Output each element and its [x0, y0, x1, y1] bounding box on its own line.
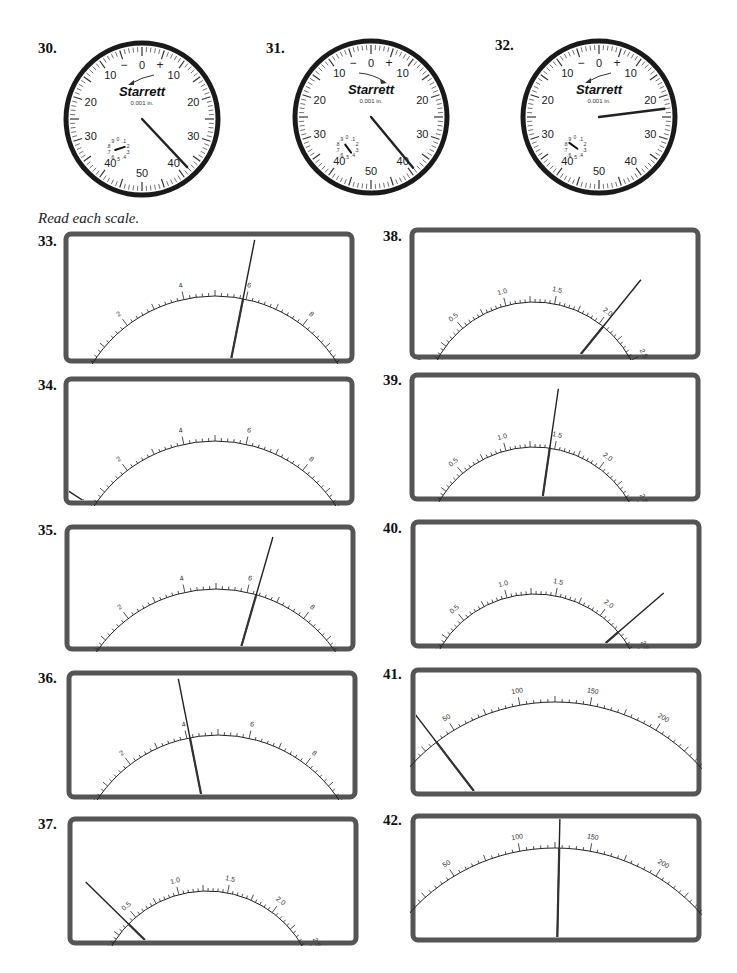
unit-label: 0.001 in. — [359, 98, 382, 104]
meter-frame — [413, 816, 699, 940]
question-number: 33. — [38, 233, 57, 250]
meter-panel: 050100150200250dcdc — [410, 667, 702, 797]
scale-tick — [241, 588, 242, 591]
question-number: 34. — [38, 377, 57, 394]
dial-label: 30 — [85, 130, 97, 142]
meter-panel: 0246810acac — [66, 670, 358, 800]
small-dial-label: .3 — [354, 147, 358, 153]
question-number: 42. — [383, 812, 402, 829]
dial-label: 30 — [314, 128, 326, 140]
dial-label: 10 — [104, 69, 116, 81]
minus-sign: − — [349, 56, 356, 70]
brand-logo: Starrett — [576, 82, 623, 97]
scale-tick — [190, 440, 191, 443]
small-dial-label: .9 — [339, 136, 343, 142]
meter-frame — [412, 230, 698, 357]
question-number: 37. — [38, 816, 57, 833]
instruction-text: Read each scale. — [38, 210, 139, 227]
small-dial-label: 0 — [346, 134, 349, 140]
scale-tick — [191, 588, 192, 591]
dial-label: 20 — [314, 94, 326, 106]
meter-panel: 00.51.01.52.02.52.5 Vac only — [410, 519, 702, 649]
small-dial-label: .5 — [116, 156, 120, 162]
dial-label: 50 — [365, 165, 377, 177]
small-dial-label: .4 — [122, 154, 126, 160]
dial-label: 20 — [542, 94, 554, 106]
scale-tick — [91, 505, 94, 506]
dial-label: 30 — [187, 130, 199, 142]
question-number: 38. — [383, 228, 402, 245]
small-dial-label: .6 — [567, 152, 571, 158]
question-number: 35. — [38, 522, 57, 539]
small-dial-label: .6 — [110, 154, 114, 160]
scale-tick — [240, 295, 241, 298]
meter-panel: 00.51.01.52.02.52.5 Vac only — [409, 372, 701, 502]
dial-label: 0 — [139, 59, 145, 71]
dial-label: 20 — [644, 94, 656, 106]
scale-tick — [94, 799, 97, 800]
small-dial-label: .5 — [573, 154, 577, 160]
small-dial-label: 0 — [574, 134, 577, 140]
scale-tick — [240, 440, 241, 443]
meter-panel: 0246810acac — [63, 231, 355, 364]
meter-panel: 00.51.01.52.02.52.5 Vac only — [409, 227, 701, 360]
small-dial-label: 0 — [117, 136, 120, 142]
scale-tick — [188, 890, 189, 893]
scale-tick — [337, 505, 340, 506]
brand-logo: Starrett — [348, 82, 395, 97]
dial-label: 10 — [625, 67, 637, 79]
dial-indicator: 0102030405040302010−+Starrett0.001 in.0.… — [62, 39, 222, 199]
scale-tick — [515, 446, 516, 449]
scale-tick — [243, 734, 244, 737]
meter-panel: 050100150200250dcdc — [410, 813, 702, 943]
question-number: 36. — [38, 670, 57, 687]
small-dial-label: .3 — [582, 147, 586, 153]
scale-tick — [340, 799, 343, 800]
dial-label: 50 — [593, 165, 605, 177]
dial-indicator: 0102030405040302010−+Starrett0.001 in.0.… — [291, 37, 451, 197]
scale-tick — [190, 295, 191, 298]
small-dial-label: .4 — [579, 152, 583, 158]
small-dial-label: .2 — [125, 143, 129, 149]
question-number: 32. — [495, 37, 514, 54]
minus-sign: − — [120, 58, 127, 72]
dial-label: 20 — [416, 94, 428, 106]
small-dial-label: .3 — [125, 149, 129, 155]
scale-tick — [516, 593, 517, 596]
small-dial-label: .9 — [110, 138, 114, 144]
dial-label: 10 — [168, 69, 180, 81]
meter-panel: 0246810acac — [63, 376, 355, 506]
dial-label: 0 — [596, 57, 602, 69]
meter-panel: 0246810acac — [64, 524, 356, 652]
small-dial-label: .6 — [339, 152, 343, 158]
minus-sign: − — [577, 56, 584, 70]
question-number: 39. — [383, 372, 402, 389]
plus-sign: + — [613, 56, 620, 70]
scale-tick — [193, 734, 194, 737]
dial-label: 20 — [85, 96, 97, 108]
small-dial-label: .2 — [354, 141, 358, 147]
dial-label: 50 — [136, 167, 148, 179]
dial-label: 10 — [561, 67, 573, 79]
dial-label: 20 — [187, 96, 199, 108]
dial-label: 10 — [397, 67, 409, 79]
question-number: 40. — [383, 520, 402, 537]
question-number: 41. — [383, 666, 402, 683]
dial-label: 10 — [333, 67, 345, 79]
dial-label: 30 — [416, 128, 428, 140]
dial-label: 30 — [644, 128, 656, 140]
question-number: 31. — [266, 40, 285, 57]
meter-frame — [413, 670, 699, 794]
dial-label: 30 — [542, 128, 554, 140]
dial-label: 40 — [625, 155, 637, 167]
question-number: 30. — [38, 40, 57, 57]
unit-label: 0.001 in. — [130, 100, 153, 106]
small-dial-label: .9 — [567, 136, 571, 142]
meter-frame — [70, 819, 356, 943]
small-dial-label: .2 — [582, 141, 586, 147]
plus-sign: + — [156, 58, 163, 72]
dial-indicator: 0102030405040302010−+Starrett0.001 in.0.… — [519, 37, 679, 197]
brand-logo: Starrett — [119, 84, 166, 99]
small-dial-label: .5 — [345, 154, 349, 160]
meter-panel: 00.51.01.52.02.52.5 Vac only — [67, 816, 359, 946]
